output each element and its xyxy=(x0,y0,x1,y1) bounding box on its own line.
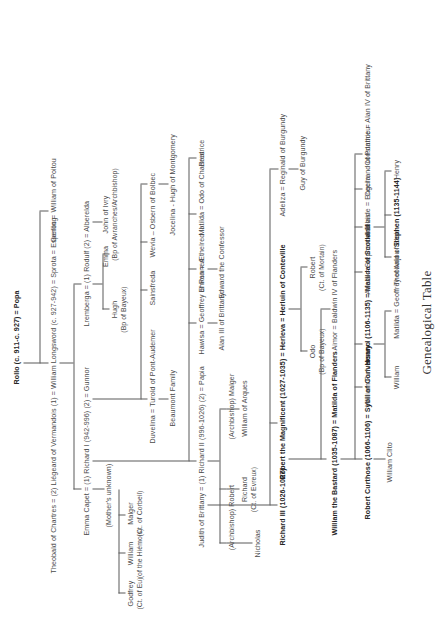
rule-johnivry-down xyxy=(92,221,102,222)
node-judith-richard-ii: Judith of Brittany = (1) Richard II (996… xyxy=(197,366,206,547)
rule-hawisa-down xyxy=(207,322,217,323)
rule-g4-t2 xyxy=(188,322,196,323)
rule-g2-bar xyxy=(39,211,40,363)
node-malger-corbeil-title: (Ct. of Corbeil) xyxy=(135,490,144,536)
rule-g2-right xyxy=(39,210,48,211)
node-john-ivry-title: (Bp of Avranches/Archbishop) xyxy=(110,168,119,261)
rule-adela-down xyxy=(373,226,384,227)
rule-herluin-t1 xyxy=(300,350,307,351)
node-theobald-chartres-line: Theobald of Chartres = (2) Liégeard of V… xyxy=(49,217,58,573)
rule-henryi-down xyxy=(373,343,384,344)
rule-gunnor-bar xyxy=(140,184,141,399)
rule-william-arques-down xyxy=(226,408,239,409)
rule-mothers-t2 xyxy=(118,552,125,553)
rule-lremberga-down xyxy=(92,283,102,284)
rule-g7-t4 xyxy=(354,271,362,272)
rule-gunnor-t3 xyxy=(140,241,147,242)
genealogical-chart-canvas: Rollo (c. 911-c. 927) = Popa Theobald of… xyxy=(0,0,436,639)
rule-lremberga-t1 xyxy=(102,308,109,309)
node-edward-confessor: Edward the Confessor xyxy=(217,226,226,298)
node-aimor-baldwin: Aimor = Baldwin IV of Flanders xyxy=(330,249,339,350)
rule-g7-t5 xyxy=(354,226,362,227)
rule-henryi-bar xyxy=(384,311,385,377)
node-duvelina: Duvelina = Turold of Pont-Audemer xyxy=(148,329,157,443)
node-lremberga: Lremberga = (1) Rodulf (2) = Alberelda xyxy=(82,200,91,326)
rule-duvelina-down xyxy=(158,398,168,399)
node-robert-archbishop: (Archbishop) Robert xyxy=(227,484,236,549)
node-william-arques: William of Arques xyxy=(240,380,249,437)
rule-emma-down xyxy=(207,268,217,269)
rule-nicholas-down xyxy=(226,542,252,543)
rule-g3-tick-1 xyxy=(73,488,81,489)
rule-g7-t6 xyxy=(354,188,362,189)
node-adeliza-reginald: Adeliza = Reginald of Burgundy xyxy=(278,113,287,216)
rule-richardii-t2 xyxy=(219,488,226,489)
scanned-page: Rollo (c. 911-c. 927) = Popa Theobald of… xyxy=(0,0,436,639)
rule-g7-t3 xyxy=(354,343,362,344)
rule-g3-bar xyxy=(73,284,74,489)
rule-gunnor-t1 xyxy=(140,398,147,399)
node-mothers-unknown: (Mother's unknown) xyxy=(104,463,113,527)
node-nicholas: Nicholas xyxy=(253,529,262,557)
node-odo-bayeux: Odo xyxy=(308,344,317,358)
rule-g5-down xyxy=(207,504,269,505)
node-sainsfreda: Sainsfreda xyxy=(148,270,157,305)
node-malger-corbeil: Malger xyxy=(126,502,135,524)
rule-aimor-up xyxy=(320,308,330,309)
node-alan-iii-brittany: Alan III of Brittany xyxy=(217,292,226,350)
node-robert-mortain-title: (Ct. of Mortain) xyxy=(317,244,326,291)
rule-richardi-down xyxy=(92,460,188,461)
rule-richardii-t1 xyxy=(219,542,226,543)
rule-g4-t3 xyxy=(188,268,196,269)
node-hugh-bayeux: Hugh xyxy=(110,300,119,317)
node-robert-mortain: Robert xyxy=(308,256,317,278)
rule-g7-bar xyxy=(354,154,355,459)
node-william-hiemois: William xyxy=(126,541,135,565)
node-rollo: Rollo (c. 911-c. 927) = Popa xyxy=(12,290,21,384)
rule-g3-tick-2 xyxy=(73,283,81,284)
rule-herluin-t2 xyxy=(300,266,307,267)
rule-adela-t1 xyxy=(384,256,391,257)
rule-guy-down xyxy=(288,168,298,169)
rule-mothers-t3 xyxy=(118,514,125,515)
node-richard-evreux: Richard xyxy=(240,476,249,501)
node-stephen: Stephen (1135-1144) xyxy=(392,177,401,247)
rule-herluin-bar xyxy=(300,267,301,351)
rule-g7-down xyxy=(340,458,354,459)
node-constance-alan-iv: Constance = Alan IV of Brittany xyxy=(363,64,372,165)
rule-jocelina-down xyxy=(158,183,168,184)
rule-mothers-bar xyxy=(118,489,119,593)
rule-gunnor-t4 xyxy=(140,183,147,184)
rule-g4-t1 xyxy=(188,460,196,461)
rule-g2-left xyxy=(39,362,48,363)
rule-g5-bar xyxy=(269,423,270,505)
rule-g7-t1 xyxy=(354,458,362,459)
node-gerloc: Gerloc = William of Poitou xyxy=(49,158,58,242)
rule-herluin-down xyxy=(288,308,300,309)
rule-beatrice-bar xyxy=(188,158,189,214)
node-beatrice: Beatrice xyxy=(197,139,206,166)
rule-henryi-t2 xyxy=(384,310,391,311)
rule-richardii-bar xyxy=(219,409,220,543)
rule-richard-evreux-down xyxy=(226,488,239,489)
rule-g7-t7 xyxy=(354,153,362,154)
rule-williamlongsword-down xyxy=(59,362,73,363)
rule-adela-t3 xyxy=(384,170,391,171)
rule-g5-t1 xyxy=(269,504,277,505)
node-robert-magnificent: Robert the Magnificent (1027-1035) = Her… xyxy=(278,244,287,479)
node-wevia: Wevia – Osbern of Bolbec xyxy=(148,172,157,257)
rule-g4-bar xyxy=(188,214,189,461)
rule-rollo-down xyxy=(23,362,39,363)
node-hugh-bayeux-title: (Bp of Bayeux) xyxy=(119,286,128,332)
node-emma-ivry: Emma xyxy=(101,246,110,267)
rule-aimor-bar xyxy=(320,309,321,459)
rule-adela-t2 xyxy=(384,214,391,215)
rule-richardii-t3 xyxy=(219,408,226,409)
node-beaumont-family: Beaumont Family xyxy=(168,369,177,426)
node-william-adelin: William xyxy=(392,365,401,389)
rule-g7-t2 xyxy=(354,386,362,387)
node-henry-blois: Henry xyxy=(392,159,401,178)
node-cecila: Cecila xyxy=(363,176,372,196)
rule-henryi-t1 xyxy=(384,376,391,377)
page-title: Genealogical Table xyxy=(418,270,434,374)
